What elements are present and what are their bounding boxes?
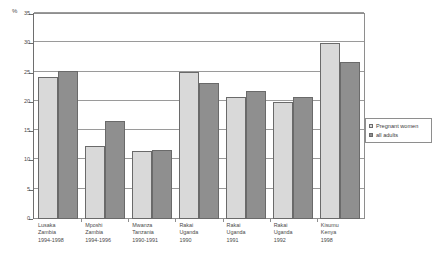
- x-axis-label: RakaiUganda1991: [227, 222, 246, 244]
- legend-item[interactable]: all adults: [369, 131, 428, 139]
- bar: [320, 43, 340, 219]
- x-axis-label-line: 1992: [274, 237, 293, 244]
- x-axis-label-line: Kisumu: [321, 222, 339, 229]
- bar-group: [85, 14, 125, 219]
- x-axis-label: RakaiUganda1992: [274, 222, 293, 244]
- bar: [226, 97, 246, 219]
- x-axis-label-line: Uganda: [179, 229, 198, 236]
- bar: [38, 77, 58, 219]
- x-axis-label-line: Uganda: [227, 229, 246, 236]
- bar: [132, 151, 152, 219]
- bar-group: [38, 14, 78, 219]
- x-axis-label-line: Mwanza: [132, 222, 158, 229]
- x-axis-label-line: 1990-1991: [132, 237, 158, 244]
- y-tick-label: 20: [24, 98, 30, 105]
- bar: [179, 72, 199, 219]
- legend-item[interactable]: Pregnant women: [369, 122, 428, 130]
- bar: [246, 91, 266, 219]
- y-tick-label: 30: [24, 39, 30, 46]
- bars-layer: [34, 14, 364, 219]
- bar: [152, 150, 172, 219]
- y-tick-label: 35: [24, 10, 30, 17]
- x-axis-label-line: 1994-1998: [38, 237, 64, 244]
- x-axis-label-line: Zambia: [38, 229, 64, 236]
- bar-group: [320, 14, 360, 219]
- x-axis-label-line: Lusaka: [38, 222, 64, 229]
- gridline-35: [34, 12, 364, 13]
- bar: [293, 97, 313, 219]
- legend-label: Pregnant women: [376, 123, 418, 130]
- x-axis-label-line: Mposhi: [85, 222, 111, 229]
- bar: [105, 121, 125, 219]
- x-axis-label: KisumuKenya1998: [321, 222, 339, 244]
- x-axis-label: MposhiZambia1994-1996: [85, 222, 111, 244]
- bar-group: [132, 14, 172, 219]
- legend-label: all adults: [376, 132, 398, 139]
- bar: [273, 102, 293, 219]
- bar-group: [179, 14, 219, 219]
- bar: [199, 83, 219, 219]
- x-axis-label-line: 1998: [321, 237, 339, 244]
- x-axis-label-line: Kenya: [321, 229, 339, 236]
- bar-group: [273, 14, 313, 219]
- bar-group: [226, 14, 266, 219]
- legend-swatch-icon: [369, 133, 373, 137]
- y-axis-unit-label: %: [12, 8, 17, 15]
- x-axis-label-line: Uganda: [274, 229, 293, 236]
- y-tick-label: 5: [27, 186, 30, 193]
- y-tick-label: 15: [24, 127, 30, 134]
- bar-chart: % 05101520253035 LusakaZambia1994-1998Mp…: [0, 0, 434, 260]
- x-axis-label-line: Rakai: [274, 222, 293, 229]
- y-tick-label: 25: [24, 69, 30, 76]
- bar: [85, 146, 105, 219]
- x-axis-label-line: Rakai: [227, 222, 246, 229]
- x-axis-label-line: Tanzania: [132, 229, 158, 236]
- x-axis-label-line: 1991: [227, 237, 246, 244]
- x-axis-label-line: 1994-1996: [85, 237, 111, 244]
- y-tick-label: 0: [27, 215, 30, 222]
- x-axis-label-line: Zambia: [85, 229, 111, 236]
- bar: [340, 62, 360, 219]
- y-tick-label: 10: [24, 156, 30, 163]
- x-axis-label-line: Rakai: [179, 222, 198, 229]
- bar: [58, 71, 78, 219]
- x-axis-label-line: 1990: [179, 237, 198, 244]
- x-axis-label: RakaiUganda1990: [179, 222, 198, 244]
- x-axis-label: MwanzaTanzania1990-1991: [132, 222, 158, 244]
- x-axis-label: LusakaZambia1994-1998: [38, 222, 64, 244]
- legend-swatch-icon: [369, 124, 373, 128]
- x-axis-labels: LusakaZambia1994-1998MposhiZambia1994-19…: [34, 222, 364, 256]
- legend: Pregnant womenall adults: [365, 118, 432, 143]
